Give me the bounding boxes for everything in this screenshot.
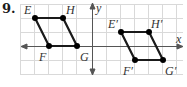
label-F: F: [38, 50, 47, 64]
point-G-prime: [160, 57, 166, 63]
label-E: E: [23, 3, 32, 17]
label-G-prime: G′: [165, 64, 177, 78]
x-axis-label: x: [175, 32, 182, 46]
label-E-prime: E′: [107, 17, 118, 31]
point-F-prime: [132, 57, 138, 63]
x-axis-left-arrow-icon: [21, 44, 27, 49]
point-G: [74, 43, 80, 49]
label-H-prime: H′: [150, 17, 163, 31]
point-F: [46, 43, 52, 49]
label-H: H: [65, 3, 76, 17]
coordinate-plane: y x E H F G E′ H′ F′ G′: [0, 0, 187, 87]
label-F-prime: F′: [122, 64, 133, 78]
y-axis-label: y: [95, 1, 102, 15]
label-G: G: [80, 50, 89, 64]
point-E-prime: [118, 29, 124, 35]
point-E: [32, 15, 38, 21]
y-axis-up-arrow-icon: [90, 3, 95, 9]
